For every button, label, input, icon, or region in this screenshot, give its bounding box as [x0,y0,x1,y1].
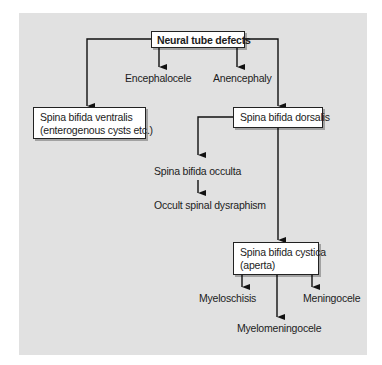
node-encephalocele: Encephalocele [125,72,191,85]
node-meningocele: Meningocele [303,292,360,305]
node-spina-bifida-ventralis: Spina bifida ventralis (enterogenous cys… [33,107,146,139]
node-label-line2: (aperta) [240,259,312,272]
node-neural-tube-defects: Neural tube defects [151,31,245,48]
node-label: Neural tube defects [157,34,251,46]
node-occult-spinal-dysraphism: Occult spinal dysraphism [154,199,266,212]
node-myelomeningocele: Myelomeningocele [237,322,321,335]
node-label-line1: Spina bifida cystica [240,246,312,259]
node-label-line2: (enterogenous cysts etc.) [40,124,139,137]
node-spina-bifida-cystica: Spina bifida cystica (aperta) [233,242,319,275]
node-anencephaly: Anencephaly [213,72,272,85]
node-label-line1: Spina bifida ventralis [40,111,139,124]
node-myeloschisis: Myeloschisis [199,292,256,305]
connector-lines [0,0,382,365]
node-label: Spina bifida dorsalis [240,111,330,123]
node-spina-bifida-occulta: Spina bifida occulta [154,165,241,178]
node-spina-bifida-dorsalis: Spina bifida dorsalis [233,107,323,128]
edge-dorsalis-occulta [198,117,233,155]
